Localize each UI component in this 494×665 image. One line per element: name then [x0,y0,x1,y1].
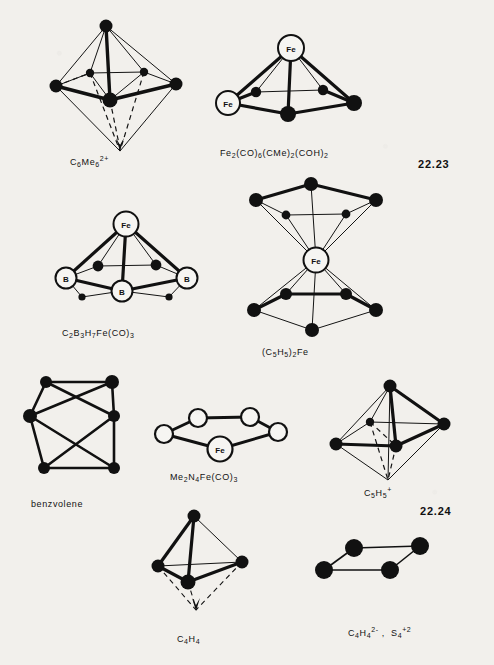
figure-fe2co6: Fe Fe [196,22,376,142]
vertex [140,68,148,76]
vertex [280,106,296,122]
figure-c4h4-s4 [308,536,448,596]
figure-ferrocene: Fe [224,182,404,342]
vertex-b-right: B [177,268,198,289]
vertex-fe-apex: Fe [114,212,139,237]
caption-text: (C5H5)2Fe [262,347,309,357]
caption-benzvolene: benzvolene [31,499,83,509]
vertex [390,440,403,453]
section-number-22-23: 22.23 [418,158,450,170]
vertex [165,293,172,300]
figure-me2n4fe: Fe [150,404,290,474]
vertex [411,537,429,555]
svg-text:Fe: Fe [121,221,131,230]
vertex [108,462,120,474]
vertex [236,556,249,569]
vertex-b-left: B [56,268,77,289]
figure-page: C6Me62+ Fe [0,0,494,665]
vertex [152,560,165,573]
figure-c5h5-cation [326,378,466,498]
vertex-fe-top: Fe [278,35,304,61]
vertex [188,510,201,523]
caption-c5h5-cation: C5H5+ [364,486,392,499]
vertex-b-front: B [112,281,133,302]
vertex [282,211,291,220]
vertex-fe: Fe [208,437,233,462]
svg-text:Fe: Fe [286,45,296,54]
vertex [345,539,363,557]
vertex [108,410,120,422]
vertex [100,20,113,33]
caption-me2n4fe: Me2N4Fe(CO)3 [170,472,238,483]
vertex [105,375,119,389]
svg-text:B: B [119,288,125,297]
vertex [189,409,207,427]
vertex [318,85,328,95]
section-number-22-24: 22.24 [420,505,452,517]
c6me6-drawing [48,18,198,168]
vertex-fe-center: Fe [304,248,329,273]
vertex [23,409,37,423]
caption-c4h4-s4: C4H42- , S4+2 [348,626,411,639]
vertex [304,177,318,191]
vertex [305,323,319,337]
svg-text:B: B [184,275,190,284]
caption-text: C6Me62+ [70,157,109,167]
caption-c4h4: C4H4 [177,634,200,645]
vertex [40,376,52,388]
vertex [381,561,399,579]
caption-text: C4H4 [177,634,200,644]
vertex [103,93,118,108]
vertex [366,418,374,426]
vertex [86,69,94,77]
vertex [369,193,383,207]
c4h4-drawing [150,508,270,628]
c5h5-drawing [326,378,466,498]
vertex [151,260,162,271]
me2n4fe-drawing: Fe [150,404,290,474]
vertex [269,423,287,441]
caption-fe2co6: Fe2(CO)6(CMe)2(COH)2 [220,148,329,159]
vertex [78,293,85,300]
figure-c2b3h7fe: Fe B B B [44,198,224,318]
caption-text: Fe2(CO)6(CMe)2(COH)2 [220,148,329,158]
ferrocene-drawing: Fe [224,182,404,342]
svg-text:Fe: Fe [311,257,321,266]
caption-text: C2B3H7Fe(CO)3 [62,328,134,338]
vertex [346,95,362,111]
vertex [241,408,259,426]
vertex [247,303,261,317]
figure-c4h4 [150,508,270,628]
vertex [155,425,173,443]
c4h4-s4-drawing [308,536,448,596]
vertex [342,210,351,219]
vertex [249,193,263,207]
figure-c6me6 [48,18,198,168]
figure-benzvolene [22,372,137,492]
vertex [315,561,333,579]
svg-text:Fe: Fe [223,100,233,109]
caption-text: Me2N4Fe(CO)3 [170,472,238,482]
vertex [170,78,183,91]
vertex [438,418,451,431]
vertex [251,87,261,97]
fe2co6-drawing: Fe Fe [196,22,376,142]
vertex [369,303,383,317]
svg-text:B: B [63,275,69,284]
caption-c6me6: C6Me62+ [70,155,109,168]
c2b3h7fe-drawing: Fe B B B [44,198,224,318]
caption-c2b3h7fe: C2B3H7Fe(CO)3 [62,328,134,339]
vertex [38,462,50,474]
vertex [93,261,104,272]
benzvolene-drawing [22,372,137,492]
vertex [280,288,292,300]
vertex [181,575,196,590]
caption-ferrocene: (C5H5)2Fe [262,347,309,358]
caption-text: C4H42- , S4+2 [348,628,411,638]
caption-text: C5H5+ [364,488,392,498]
vertex [340,288,352,300]
vertex [384,380,397,393]
svg-text:Fe: Fe [215,446,225,455]
vertex [330,438,343,451]
vertex-fe-left: Fe [216,91,240,115]
